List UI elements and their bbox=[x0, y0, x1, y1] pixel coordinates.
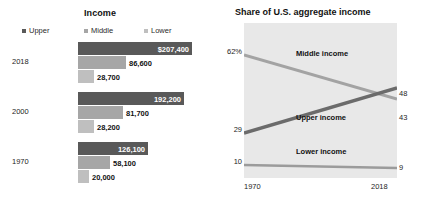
line-chart-left-axis: 62% 29 10 bbox=[211, 23, 242, 178]
left-label-upper: 29 bbox=[234, 125, 242, 134]
bar-2000-middle: 81,700 bbox=[78, 106, 123, 119]
bar-group-label-2018: 2018 bbox=[12, 57, 38, 66]
bar-value-2000-upper: 192,200 bbox=[154, 94, 181, 103]
line-chart-right-axis: 48 43 9 bbox=[399, 23, 422, 178]
legend-item-upper: Upper bbox=[22, 26, 49, 35]
left-label-lower: 10 bbox=[234, 157, 242, 166]
legend-item-middle: Middle bbox=[84, 26, 113, 35]
line-plot-area: Middle income Upper income Lower income bbox=[244, 23, 397, 178]
income-bar-chart: Income Upper Middle Lower 2018 $207,400 … bbox=[0, 0, 211, 202]
bar-value-2018-upper: $207,400 bbox=[158, 44, 189, 53]
bar-1970-upper: 126,100 bbox=[78, 142, 148, 155]
legend-swatch-lower bbox=[144, 29, 148, 33]
series-label-upper-income: Upper income bbox=[296, 113, 346, 122]
bar-group-label-1970: 1970 bbox=[12, 157, 38, 166]
series-label-middle-income: Middle income bbox=[296, 49, 348, 58]
bar-value-2018-middle: 86,600 bbox=[129, 58, 152, 67]
right-label-lower: 9 bbox=[399, 163, 403, 172]
bar-group-label-2000: 2000 bbox=[12, 107, 38, 116]
line-lower-income bbox=[244, 165, 397, 168]
x-axis-label-start: 1970 bbox=[244, 182, 261, 191]
bar-chart-title: Income bbox=[0, 8, 200, 18]
legend-label-upper: Upper bbox=[29, 26, 49, 35]
bar-group-1970: 1970 126,100 58,100 20,000 bbox=[0, 142, 211, 188]
x-axis-label-end: 2018 bbox=[371, 182, 388, 191]
bar-value-1970-lower: 20,000 bbox=[92, 172, 115, 181]
legend-swatch-upper bbox=[22, 29, 26, 33]
right-label-middle: 43 bbox=[399, 113, 407, 122]
bar-value-2000-middle: 81,700 bbox=[126, 108, 149, 117]
bar-group-2000: 2000 192,200 81,700 28,200 bbox=[0, 92, 211, 138]
bar-value-2018-lower: 28,700 bbox=[97, 72, 120, 81]
right-label-upper: 48 bbox=[399, 89, 407, 98]
legend-label-lower: Lower bbox=[151, 26, 171, 35]
bar-chart-legend: Upper Middle Lower bbox=[22, 26, 192, 37]
bar-2018-lower: 28,700 bbox=[78, 70, 94, 83]
bar-1970-lower: 20,000 bbox=[78, 170, 89, 183]
bar-1970-middle: 58,100 bbox=[78, 156, 110, 169]
line-upper-income bbox=[244, 88, 397, 133]
legend-label-middle: Middle bbox=[91, 26, 113, 35]
bar-value-1970-middle: 58,100 bbox=[113, 158, 136, 167]
series-label-lower-income: Lower income bbox=[296, 147, 346, 156]
legend-swatch-middle bbox=[84, 29, 88, 33]
bar-2000-lower: 28,200 bbox=[78, 120, 94, 133]
line-chart-title: Share of U.S. aggregate income bbox=[235, 7, 371, 17]
bar-value-2000-lower: 28,200 bbox=[97, 122, 120, 131]
bar-2000-upper: 192,200 bbox=[78, 92, 184, 105]
bar-2018-upper: $207,400 bbox=[78, 42, 192, 55]
charts-page: Income Upper Middle Lower 2018 $207,400 … bbox=[0, 0, 422, 202]
income-share-line-chart: Share of U.S. aggregate income 62% 29 10… bbox=[211, 0, 422, 202]
bar-2018-middle: 86,600 bbox=[78, 56, 126, 69]
left-label-middle: 62% bbox=[227, 47, 242, 56]
line-middle-income bbox=[244, 55, 397, 99]
bar-group-2018: 2018 $207,400 86,600 28,700 bbox=[0, 42, 211, 88]
legend-item-lower: Lower bbox=[144, 26, 171, 35]
bar-plot-area: 2018 $207,400 86,600 28,700 2000 192,200 bbox=[0, 42, 211, 197]
bar-value-1970-upper: 126,100 bbox=[118, 144, 145, 153]
